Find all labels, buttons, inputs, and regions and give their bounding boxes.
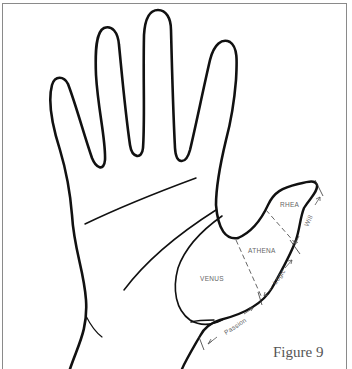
passion-arrow-left — [208, 337, 217, 344]
label-will: Will — [303, 214, 314, 228]
hand-outline — [50, 10, 238, 369]
label-athena: ATHENA — [248, 247, 276, 254]
figure-caption: Figure 9 — [273, 344, 323, 360]
label-rhea: RHEA — [280, 201, 300, 208]
will-arrow-right — [315, 197, 320, 205]
heart-line — [85, 178, 196, 224]
athena-rhea-divider — [266, 210, 296, 244]
wrist-line — [86, 316, 102, 337]
label-logic: Logic — [271, 267, 288, 286]
venus-mount-outline — [175, 216, 222, 325]
venus-base-line — [191, 320, 214, 322]
tick-passion-start — [199, 337, 204, 350]
label-venus: VENUS — [200, 275, 224, 282]
hand-diagram: VENUS ATHENA RHEA Passion Logic Will Fig… — [0, 0, 352, 369]
